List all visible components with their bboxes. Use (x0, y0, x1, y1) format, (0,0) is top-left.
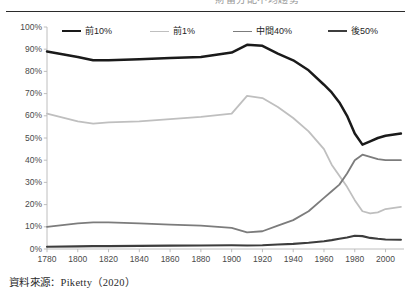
x-tick-1860: 1860 (159, 255, 181, 264)
legend-item-top10[interactable]: 前10% (62, 27, 112, 36)
source-note: 資料來源：Piketty（2020） (9, 274, 135, 289)
y-tick-60pct: 60% (25, 111, 42, 120)
x-tick-1780: 1780 (36, 255, 58, 264)
x-tick-1920: 1920 (251, 255, 273, 264)
legend-label-bottom50: 後50% (351, 27, 378, 36)
header-divider (6, 11, 405, 12)
y-tick-0pct: 0% (30, 245, 42, 254)
legend-item-top1[interactable]: 前1% (150, 27, 195, 36)
x-tick-1880: 1880 (190, 255, 212, 264)
y-tick-40pct: 40% (25, 156, 42, 165)
plot-canvas (0, 14, 411, 266)
legend-item-bottom50[interactable]: 後50% (328, 27, 378, 36)
legend-item-middle40[interactable]: 中間40% (233, 27, 292, 36)
legend-label-top1: 前1% (173, 27, 195, 36)
x-tick-1960: 1960 (313, 255, 335, 264)
y-tick-10pct: 10% (25, 222, 42, 231)
y-tick-50pct: 50% (25, 134, 42, 143)
y-tick-30pct: 30% (25, 178, 42, 187)
legend-swatch-top10 (62, 30, 81, 32)
x-tick-1940: 1940 (282, 255, 304, 264)
x-tick-2000: 2000 (375, 255, 397, 264)
page-title-partial: 財富分配不均趨勢 (215, 0, 299, 6)
x-tick-1840: 1840 (128, 255, 150, 264)
legend-label-top10: 前10% (85, 27, 112, 36)
y-tick-70pct: 70% (25, 89, 42, 98)
y-tick-80pct: 80% (25, 67, 42, 76)
wealth-share-line-chart: 前10% 前1% 中間40% 後50% 0%10%20%30%40%50%60%… (0, 14, 411, 266)
y-tick-90pct: 90% (25, 45, 42, 54)
x-tick-1980: 1980 (344, 255, 366, 264)
legend-swatch-bottom50 (328, 30, 347, 32)
legend-swatch-top1 (150, 31, 169, 32)
legend-label-middle40: 中間40% (256, 27, 292, 36)
chart-legend: 前10% 前1% 中間40% 後50% (62, 23, 402, 39)
x-tick-1900: 1900 (221, 255, 243, 264)
x-tick-1800: 1800 (67, 255, 89, 264)
x-tick-1820: 1820 (98, 255, 120, 264)
y-tick-20pct: 20% (25, 200, 42, 209)
y-tick-100pct: 100% (20, 23, 42, 32)
legend-swatch-middle40 (233, 31, 252, 32)
